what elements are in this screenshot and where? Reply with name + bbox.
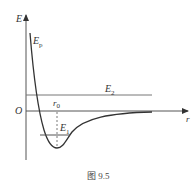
r0-label: r0	[53, 98, 61, 110]
potential-energy-curve	[30, 33, 152, 148]
y-axis-label: E	[15, 13, 22, 24]
origin-label: O	[15, 105, 22, 116]
level-label-e1: E1	[59, 122, 70, 136]
figure-caption: 图 9.5	[87, 171, 110, 181]
curve-label-ep: Ep	[32, 35, 43, 49]
potential-energy-diagram: E Ep O r E2 E1 r0 图 9.5	[0, 0, 196, 192]
x-axis-label: r	[186, 114, 190, 124]
